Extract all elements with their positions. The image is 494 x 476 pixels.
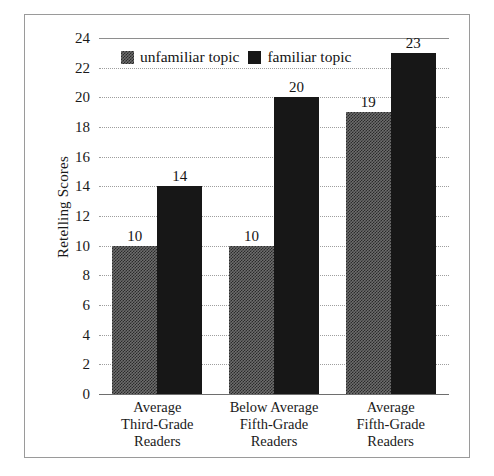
y-tick-label-22: 22 [75,61,90,76]
chart-figure-frame: Retelling Scores 242220181614121086420 1… [24,14,470,458]
category-line: Average [332,399,449,416]
bar-value-label: 23 [406,36,421,51]
category-line: Average [99,399,216,416]
chart-legend: unfamiliar topicfamiliar topic [121,48,351,66]
y-tick-label-12: 12 [75,209,90,224]
bar-value-label: 10 [244,229,259,244]
y-tick-label-8: 8 [83,268,91,283]
legend-item-unfamiliar[interactable]: unfamiliar topic [121,48,239,66]
category-line: Fifth-Grade [216,416,333,433]
y-tick-label-2: 2 [83,357,91,372]
x-axis-category-label-1: AverageThird-GradeReaders [99,399,216,450]
y-tick-label-4: 4 [83,328,91,343]
x-axis-category-label-3: AverageFifth-GradeReaders [332,399,449,450]
bar-value-label: 14 [172,169,187,184]
y-tick-label-24: 24 [75,31,90,46]
x-axis-category-label-2: Below AverageFifth-GradeReaders [216,399,333,450]
category-line: Third-Grade [99,416,216,433]
gridline-0: 0 [99,394,449,395]
bar-familiar-group-1[interactable]: 14 [157,186,202,394]
gridline-24: 24 [99,38,449,39]
y-tick-label-20: 20 [75,90,90,105]
legend-label: familiar topic [267,48,351,66]
bar-familiar-group-2[interactable]: 20 [274,97,319,394]
category-line: Readers [216,433,333,450]
y-axis-title: Retelling Scores [55,29,73,385]
bar-value-label: 19 [361,95,376,110]
bar-unfamiliar-group-1[interactable]: 10 [112,246,157,394]
y-tick-label-0: 0 [83,387,91,402]
legend-label: unfamiliar topic [140,48,239,66]
category-line: Readers [99,433,216,450]
bar-value-label: 20 [289,80,304,95]
plot-area: 242220181614121086420 101410201923 Avera… [99,38,449,394]
legend-item-familiar[interactable]: familiar topic [248,48,351,66]
category-line: Readers [332,433,449,450]
bar-familiar-group-3[interactable]: 23 [391,53,436,394]
legend-swatch-familiar-icon [248,51,261,64]
bar-unfamiliar-group-3[interactable]: 19 [346,112,391,394]
y-tick-label-14: 14 [75,179,90,194]
bar-unfamiliar-group-2[interactable]: 10 [229,246,274,394]
y-tick-label-16: 16 [75,150,90,165]
category-line: Below Average [216,399,333,416]
category-line: Fifth-Grade [332,416,449,433]
y-tick-label-10: 10 [75,239,90,254]
y-tick-label-6: 6 [83,298,91,313]
y-tick-label-18: 18 [75,120,90,135]
bar-value-label: 10 [127,229,142,244]
legend-swatch-unfamiliar-icon [121,51,134,64]
